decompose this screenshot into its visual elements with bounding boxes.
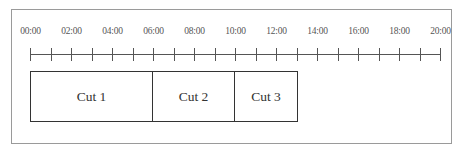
cut-3-block[interactable]: Cut 3 bbox=[235, 71, 298, 122]
tick bbox=[174, 48, 175, 61]
tick bbox=[256, 48, 257, 61]
tick bbox=[297, 48, 298, 61]
tick-label: 04:00 bbox=[102, 26, 123, 36]
tick bbox=[358, 48, 359, 61]
tick-label: 00:00 bbox=[20, 26, 41, 36]
tick-label: 10:00 bbox=[225, 26, 246, 36]
tick-label: 14:00 bbox=[307, 26, 328, 36]
tick-label: 12:00 bbox=[266, 26, 287, 36]
tick bbox=[71, 48, 72, 61]
tick bbox=[215, 48, 216, 61]
tick bbox=[133, 48, 134, 61]
tick bbox=[51, 48, 52, 61]
tick bbox=[440, 48, 441, 61]
tick bbox=[30, 48, 31, 61]
cut-1-block[interactable]: Cut 1 bbox=[30, 71, 153, 122]
tick-label: 06:00 bbox=[143, 26, 164, 36]
tick-label: 18:00 bbox=[389, 26, 410, 36]
tick bbox=[153, 48, 154, 61]
cut-label: Cut 2 bbox=[179, 89, 209, 105]
tick bbox=[338, 48, 339, 61]
tick-label: 16:00 bbox=[348, 26, 369, 36]
tick bbox=[235, 48, 236, 61]
tick-label: 02:00 bbox=[61, 26, 82, 36]
cut-label: Cut 3 bbox=[251, 89, 281, 105]
tick bbox=[317, 48, 318, 61]
tick bbox=[112, 48, 113, 61]
tick-label: 08:00 bbox=[184, 26, 205, 36]
tick-label: 20:00 bbox=[430, 26, 451, 36]
cut-2-block[interactable]: Cut 2 bbox=[153, 71, 235, 122]
tick bbox=[420, 48, 421, 61]
tick bbox=[276, 48, 277, 61]
tick bbox=[194, 48, 195, 61]
tick bbox=[92, 48, 93, 61]
tick bbox=[399, 48, 400, 61]
cut-label: Cut 1 bbox=[77, 89, 107, 105]
tick bbox=[379, 48, 380, 61]
